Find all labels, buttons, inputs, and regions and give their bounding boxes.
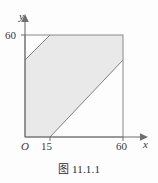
y-axis-tick-label-60: 60 [5,30,16,41]
origin-label: O [21,141,29,152]
y-axis-label: y [19,11,24,22]
coordinate-diagram [0,0,158,183]
x-axis-tick-label-60: 60 [116,141,127,152]
figure-container: 60 O 15 60 x y 图 11.1.1 [0,0,158,183]
favorable-region-band [25,35,123,137]
x-axis-tick-label-15: 15 [41,141,52,152]
x-axis-label: x [143,139,148,150]
figure-caption: 图 11.1.1 [0,160,158,176]
